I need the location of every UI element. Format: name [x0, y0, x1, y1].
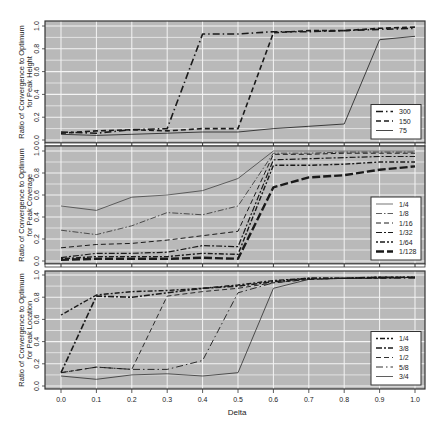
- figure: 0.00.20.40.60.81.0Ratio of Convergence t…: [0, 0, 446, 431]
- legend-label: 1/16: [399, 220, 413, 227]
- x-tick-label: 0.3: [162, 396, 172, 403]
- y-tick-label: 0.8: [33, 292, 40, 302]
- y-tick-label: 0.6: [33, 67, 40, 77]
- y-tick-label: 1.0: [33, 270, 40, 280]
- legend-label: 3/8: [399, 345, 409, 352]
- y-tick-label: 0.0: [33, 381, 40, 391]
- plot-area: [45, 21, 425, 143]
- panels: 0.00.20.40.60.81.0Ratio of Convergence t…: [17, 21, 425, 403]
- legend-label: 1/2: [399, 354, 409, 361]
- panel-3: 0.00.20.40.60.81.0Ratio of Convergence t…: [17, 270, 425, 403]
- legend-label: 150: [399, 118, 411, 125]
- plot-area: [45, 146, 425, 264]
- y-tick-label: 0.0: [33, 256, 40, 266]
- y-axis: 0.00.20.40.60.81.0: [33, 270, 45, 391]
- legend-label: 1/4: [399, 335, 409, 342]
- x-tick-label: 0.9: [375, 396, 385, 403]
- legend: 1/41/81/161/321/641/128: [371, 197, 421, 260]
- legend: 30015075: [371, 105, 421, 140]
- y-axis-label: for Peak Coverage: [25, 174, 34, 237]
- x-tick-label: 1.0: [410, 396, 420, 403]
- y-tick-label: 0.6: [33, 190, 40, 200]
- y-axis-label: for Peak Location: [25, 301, 34, 359]
- y-axis-label: for Peak Height: [25, 55, 34, 108]
- legend-label: 1/8: [399, 210, 409, 217]
- y-tick-label: 0.6: [33, 314, 40, 324]
- x-tick-label: 0.4: [198, 396, 208, 403]
- legend-label: 1/32: [399, 229, 413, 236]
- y-tick-label: 0.4: [33, 212, 40, 222]
- legend-label: 1/64: [399, 239, 413, 246]
- x-tick-label: 0.6: [269, 396, 279, 403]
- legend: 1/43/81/25/83/4: [371, 332, 421, 386]
- legend-label: 75: [399, 127, 407, 134]
- y-axis: 0.00.20.40.60.81.0: [33, 21, 45, 145]
- x-tick-label: 0.8: [339, 396, 349, 403]
- y-tick-label: 0.2: [33, 234, 40, 244]
- y-tick-label: 0.2: [33, 359, 40, 369]
- legend-label: 3/4: [399, 373, 409, 380]
- legend-label: 1/4: [399, 201, 409, 208]
- y-tick-label: 0.8: [33, 44, 40, 54]
- legend-label: 5/8: [399, 364, 409, 371]
- x-axis: [45, 264, 425, 267]
- y-tick-label: 0.8: [33, 168, 40, 178]
- y-axis: 0.00.20.40.60.81.0: [33, 146, 45, 266]
- panel-2: 0.00.20.40.60.81.0Ratio of Convergence t…: [17, 146, 425, 267]
- y-tick-label: 0.4: [33, 89, 40, 99]
- x-tick-label: 0.5: [233, 396, 243, 403]
- x-tick-label: 0.2: [127, 396, 137, 403]
- panel-1: 0.00.20.40.60.81.0Ratio of Convergence t…: [17, 21, 425, 146]
- legend-label: 300: [399, 108, 411, 115]
- y-tick-label: 1.0: [33, 21, 40, 31]
- x-axis: 0.00.10.20.30.40.50.60.70.80.91.0: [56, 389, 420, 403]
- y-tick-label: 0.4: [33, 337, 40, 347]
- x-tick-label: 0.1: [92, 396, 102, 403]
- x-tick-label: 0.7: [304, 396, 314, 403]
- legend-label: 1/128: [399, 248, 417, 255]
- x-tick-label: 0.0: [56, 396, 66, 403]
- y-tick-label: 0.0: [33, 135, 40, 145]
- y-tick-label: 1.0: [33, 146, 40, 156]
- x-axis-label: Delta: [228, 408, 247, 417]
- y-tick-label: 0.2: [33, 112, 40, 122]
